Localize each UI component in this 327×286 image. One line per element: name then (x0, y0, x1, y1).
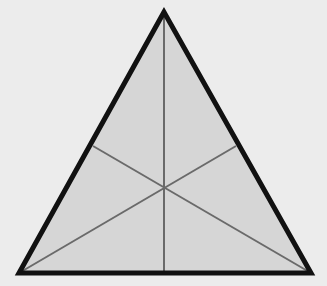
diagram-canvas (0, 0, 327, 286)
triangle-diagram (0, 0, 327, 286)
